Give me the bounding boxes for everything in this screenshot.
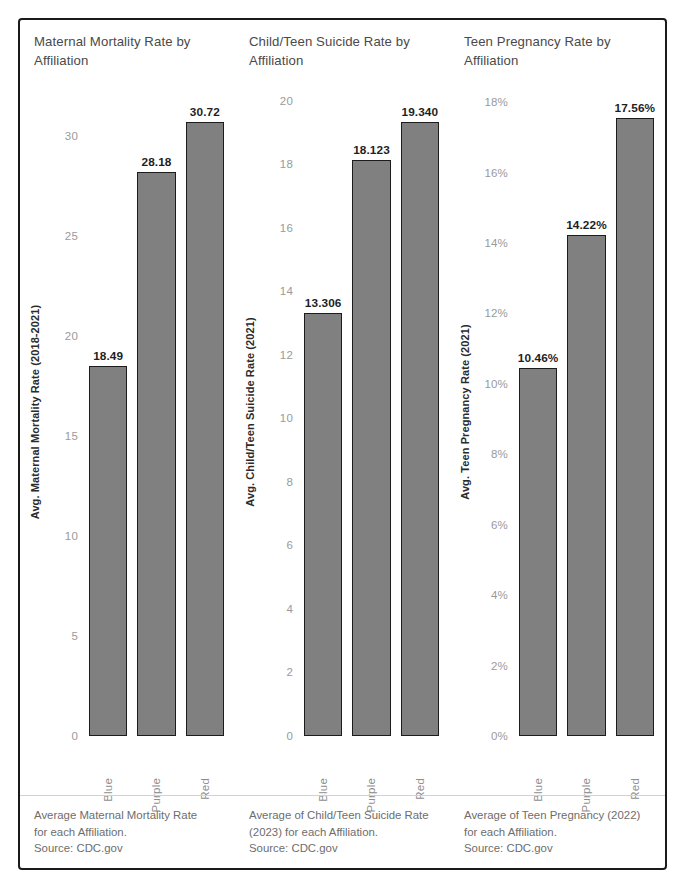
y-axis-tick-label: 0 [286,730,293,742]
bar[interactable] [186,122,225,736]
chart-note-line: for each Affiliation. [34,824,225,841]
chart-note-line: Source: CDC.gov [249,840,440,857]
dashboard-frame: Maternal Mortality Rate by Affiliation A… [18,18,667,870]
bar[interactable] [89,366,128,736]
y-axis-tick-label: 10 [280,412,293,424]
chart-panel-maternal-mortality[interactable]: Maternal Mortality Rate by Affiliation A… [20,20,235,796]
y-axis-tick-label: 6% [491,519,508,531]
bar-series: 10.46%Blue14.22%Purple17.56%Red [514,88,659,796]
bar[interactable] [304,313,343,736]
bar-series: 13.306Blue18.123Purple19.340Red [299,88,444,796]
bar-value-label: 10.46% [518,351,559,365]
bar[interactable] [401,122,440,736]
y-axis-tick-label: 20 [65,330,78,342]
chart-note: Average of Child/Teen Suicide Rate(2023)… [235,796,450,868]
bar-column[interactable]: 18.123Purple [352,88,391,796]
y-axis-tick-label: 10% [484,378,508,390]
bar-series: 18.49Blue28.18Purple30.72Red [84,88,229,796]
y-axis-tick-label: 30 [65,130,78,142]
bar-column[interactable]: 19.340Red [401,88,440,796]
y-axis-ticks: 02468101214161820 [257,88,297,796]
bar-column[interactable]: 13.306Blue [304,88,343,796]
chart-note-line: (2023) for each Affiliation. [249,824,440,841]
y-axis-tick-label: 4 [286,603,293,615]
chart-note-line: Average Maternal Mortality Rate [34,807,225,824]
y-axis-tick-label: 25 [65,230,78,242]
y-axis-tick-label: 14% [484,237,508,249]
y-axis-ticks: 0%2%4%6%8%10%12%14%16%18% [472,88,512,796]
y-axis-tick-label: 0% [491,730,508,742]
bar-value-label: 18.123 [353,143,390,157]
bar-value-label: 14.22% [566,218,607,232]
bar-value-label: 17.56% [615,101,656,115]
bar-column[interactable]: 10.46%Blue [519,88,558,796]
plot-area: Avg. Maternal Mortality Rate (2018-2021)… [20,88,231,796]
bar-value-label: 30.72 [190,105,220,119]
bar-column[interactable]: 30.72Red [186,88,225,796]
y-axis-tick-label: 10 [65,530,78,542]
chart-note-line: Source: CDC.gov [34,840,225,857]
y-axis-tick-label: 5 [71,630,78,642]
bar-value-label: 19.340 [401,105,438,119]
bar-value-label: 18.49 [93,349,123,363]
bar[interactable] [137,172,176,736]
y-axis-tick-label: 18% [484,96,508,108]
bar-column[interactable]: 17.56%Red [616,88,655,796]
bar-column[interactable]: 18.49Blue [89,88,128,796]
bar[interactable] [519,368,558,736]
y-axis-title-label: Avg. Child/Teen Suicide Rate (2021) [244,317,256,506]
y-axis-tick-label: 16 [280,222,293,234]
y-axis-ticks: 051015202530 [42,88,82,796]
plot-area: Avg. Teen Pregnancy Rate (2021) 0%2%4%6%… [450,88,661,796]
chart-note: Average of Teen Pregnancy (2022)for each… [450,796,665,868]
y-axis-title-label: Avg. Teen Pregnancy Rate (2021) [459,324,471,500]
bar[interactable] [567,235,606,736]
y-axis-tick-label: 18 [280,158,293,170]
y-axis-tick-label: 2% [491,660,508,672]
y-axis-tick-label: 8 [286,476,293,488]
y-axis-title-label: Avg. Maternal Mortality Rate (2018-2021) [29,305,41,520]
y-axis-tick-label: 14 [280,285,293,297]
y-axis-tick-label: 6 [286,539,293,551]
y-axis-tick-label: 20 [280,95,293,107]
chart-note: Average Maternal Mortality Ratefor each … [20,796,235,868]
plot-area: Avg. Child/Teen Suicide Rate (2021) 0246… [235,88,446,796]
y-axis-tick-label: 4% [491,589,508,601]
bar-column[interactable]: 14.22%Purple [567,88,606,796]
chart-panel-teen-pregnancy[interactable]: Teen Pregnancy Rate by Affiliation Avg. … [450,20,665,796]
chart-title: Teen Pregnancy Rate by Affiliation [464,32,657,70]
y-axis-tick-label: 0 [71,730,78,742]
y-axis-tick-label: 15 [65,430,78,442]
chart-title: Child/Teen Suicide Rate by Affiliation [249,32,442,70]
chart-notes-footer: Average Maternal Mortality Ratefor each … [20,795,665,868]
chart-title: Maternal Mortality Rate by Affiliation [34,32,227,70]
y-axis-tick-label: 8% [491,448,508,460]
bar[interactable] [352,160,391,736]
chart-note-line: Average of Child/Teen Suicide Rate [249,807,440,824]
chart-panel-child-teen-suicide[interactable]: Child/Teen Suicide Rate by Affiliation A… [235,20,450,796]
bar-value-label: 13.306 [305,296,342,310]
bar-value-label: 28.18 [141,155,171,169]
chart-panels: Maternal Mortality Rate by Affiliation A… [20,20,665,796]
y-axis-tick-label: 16% [484,167,508,179]
y-axis-tick-label: 12 [280,349,293,361]
chart-note-line: Average of Teen Pregnancy (2022) [464,807,655,824]
chart-note-line: Source: CDC.gov [464,840,655,857]
bar[interactable] [616,118,655,736]
y-axis-tick-label: 2 [286,666,293,678]
chart-note-line: for each Affiliation. [464,824,655,841]
bar-column[interactable]: 28.18Purple [137,88,176,796]
y-axis-tick-label: 12% [484,307,508,319]
